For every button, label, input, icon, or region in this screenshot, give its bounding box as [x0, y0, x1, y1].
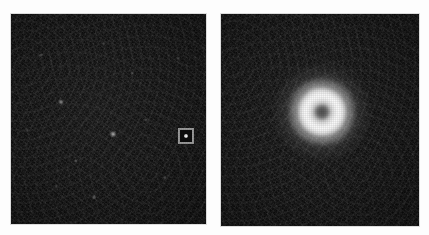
- figure-root: [0, 0, 429, 235]
- source-marker-box[interactable]: [178, 128, 194, 144]
- panel-wide-field[interactable]: [11, 14, 206, 224]
- marked-point-source: [184, 134, 188, 138]
- detector-noise-coarse: [221, 14, 419, 226]
- panel-zoom[interactable]: [221, 14, 419, 226]
- detector-noise-coarse: [11, 14, 206, 224]
